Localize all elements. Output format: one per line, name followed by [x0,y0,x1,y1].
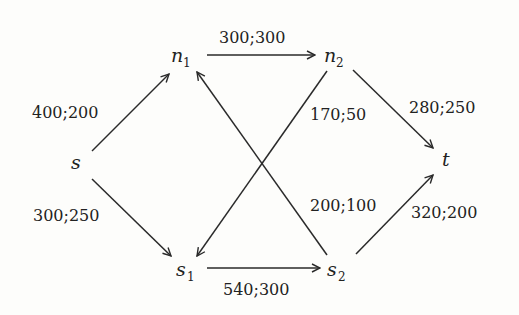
svg-text:s: s [71,151,81,173]
flow-network-diagram: 400;200 300;250 300;300 280;250 170;50 2… [0,0,519,315]
edge-label-s2-t: 320;200 [411,203,477,222]
edge-label-n2-t: 280;250 [409,98,475,117]
edge-label-s2-n1: 200;100 [310,196,376,215]
node-n1: n 1 [171,44,191,70]
edge-label-s-s1: 300;250 [33,206,99,225]
svg-text:1: 1 [187,270,195,284]
node-n2: n 2 [324,44,344,70]
svg-text:s: s [327,258,337,280]
edge-s-n1 [92,74,169,151]
edge-label-n1-n2: 300;300 [219,28,285,47]
svg-text:1: 1 [183,56,191,70]
svg-text:2: 2 [338,270,346,284]
svg-text:t: t [442,148,450,170]
node-s1: s 1 [176,258,195,284]
edge-s-s1 [92,179,171,256]
svg-text:n: n [171,44,183,66]
node-s: s [71,151,81,173]
svg-text:n: n [324,44,336,66]
node-s2: s 2 [327,258,346,284]
edge-label-n2-s1: 170;50 [310,105,366,124]
node-t: t [442,148,450,170]
svg-text:s: s [176,258,186,280]
edge-label-s1-s2: 540;300 [223,280,289,299]
edge-label-s-n1: 400;200 [32,103,98,122]
svg-text:2: 2 [336,56,344,70]
